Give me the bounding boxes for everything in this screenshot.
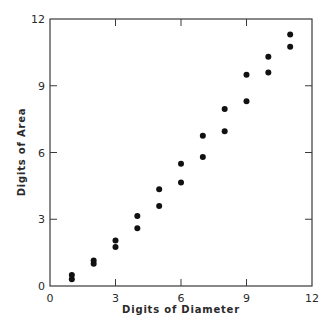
data-point (134, 225, 140, 231)
x-tick-label: 9 (243, 292, 250, 305)
data-point (178, 161, 184, 167)
data-point (244, 98, 250, 104)
data-point (178, 180, 184, 186)
data-point (287, 32, 293, 38)
x-tick-label: 0 (47, 292, 54, 305)
x-tick-label: 3 (112, 292, 119, 305)
y-tick-label: 9 (38, 80, 45, 93)
axis-ticks (50, 19, 312, 286)
data-point (69, 276, 75, 282)
data-points (69, 32, 293, 283)
data-point (265, 54, 271, 60)
plot-border (50, 19, 312, 286)
data-point (91, 261, 97, 267)
y-tick-labels: 036912 (31, 13, 45, 293)
y-tick-label: 6 (38, 147, 45, 160)
y-tick-label: 12 (31, 13, 45, 26)
data-point (156, 203, 162, 209)
data-point (222, 106, 228, 112)
y-tick-label: 0 (38, 280, 45, 293)
data-point (113, 244, 119, 250)
y-axis-title: Digits of Area (16, 108, 27, 197)
y-tick-label: 3 (38, 213, 45, 226)
chart-canvas: 036912 036912 Digits of Diameter Digits … (0, 0, 330, 334)
scatter-chart: 036912 036912 Digits of Diameter Digits … (0, 0, 330, 334)
data-point (265, 69, 271, 75)
data-point (200, 133, 206, 139)
data-point (222, 128, 228, 134)
data-point (200, 154, 206, 160)
data-point (244, 72, 250, 78)
plot-frame (50, 19, 312, 286)
data-point (113, 237, 119, 243)
data-point (156, 186, 162, 192)
x-tick-label: 12 (305, 292, 319, 305)
x-axis-title: Digits of Diameter (122, 304, 240, 315)
data-point (287, 44, 293, 50)
data-point (134, 213, 140, 219)
